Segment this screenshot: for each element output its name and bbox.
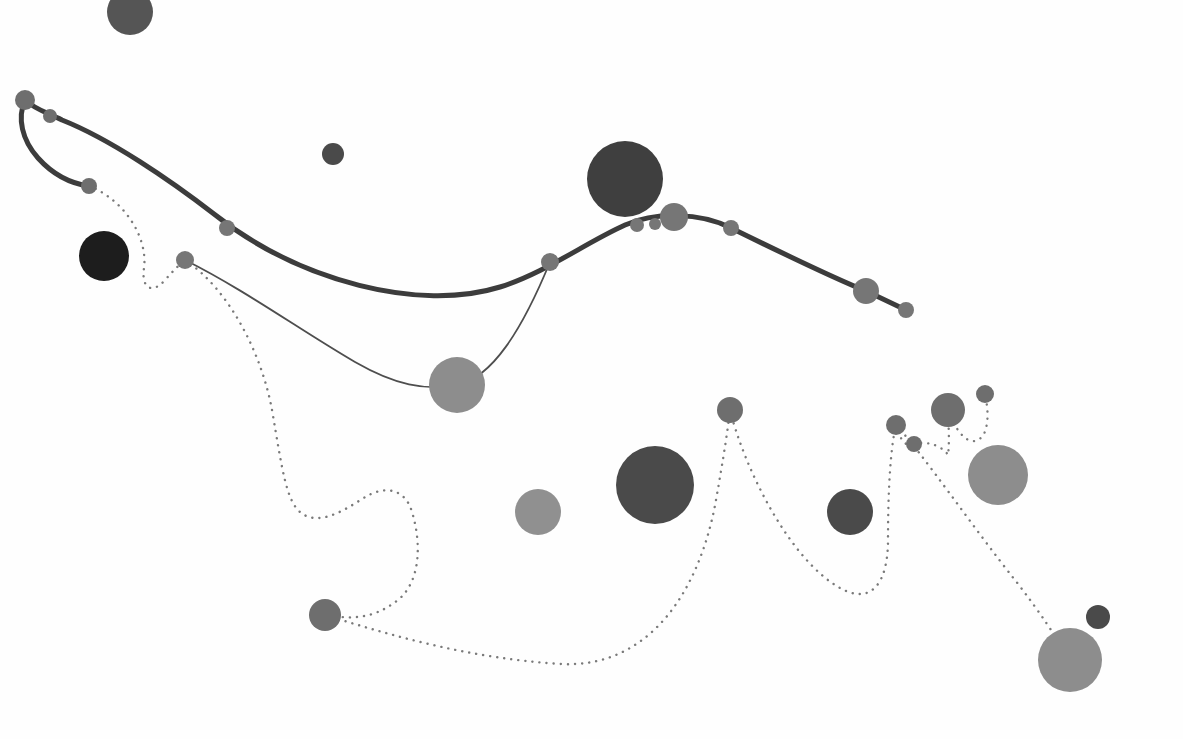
node-chain-right-tip[interactable] — [898, 302, 914, 318]
node-small-top-mid[interactable] — [322, 143, 344, 165]
node-cluster-tiny[interactable] — [906, 436, 922, 452]
node-chain-peak-large[interactable] — [660, 203, 688, 231]
node-small-dark-bottom[interactable] — [1086, 605, 1110, 629]
node-dotted-node-left-bot[interactable] — [309, 599, 341, 631]
node-mid-dark-lower-right[interactable] — [827, 489, 873, 535]
node-big-dark-lower[interactable] — [616, 446, 694, 524]
network-graph-svg: Network Node Diagram — [0, 0, 1183, 739]
node-chain-peak-small-a[interactable] — [630, 218, 644, 232]
node-chain-after-peak[interactable] — [723, 220, 739, 236]
node-chain-valley[interactable] — [541, 253, 559, 271]
node-big-dark-upper[interactable] — [587, 141, 663, 217]
node-dotted-hub-lower-mid[interactable] — [717, 397, 743, 423]
node-cluster-left-small[interactable] — [886, 415, 906, 435]
node-chain-right-hub[interactable] — [853, 278, 879, 304]
node-chain-mid-left[interactable] — [219, 220, 235, 236]
node-large-light-mid[interactable] — [429, 357, 485, 413]
node-cluster-top-tiny[interactable] — [976, 385, 994, 403]
node-cluster-center[interactable] — [931, 393, 965, 427]
node-large-light-right[interactable] — [968, 445, 1028, 505]
node-light-lower-mid[interactable] — [515, 489, 561, 535]
node-root-left[interactable] — [15, 90, 35, 110]
node-chain-peak-small-b[interactable] — [649, 218, 661, 230]
node-large-light-bottom[interactable] — [1038, 628, 1102, 692]
background-rect — [0, 0, 1183, 739]
node-root-left-adjacent[interactable] — [43, 109, 57, 123]
node-left-branch-tip[interactable] — [81, 178, 97, 194]
node-left-near-black[interactable] — [79, 231, 129, 281]
node-thin-branch-origin[interactable] — [176, 251, 194, 269]
diagram-canvas: Network Node Diagram — [0, 0, 1183, 739]
